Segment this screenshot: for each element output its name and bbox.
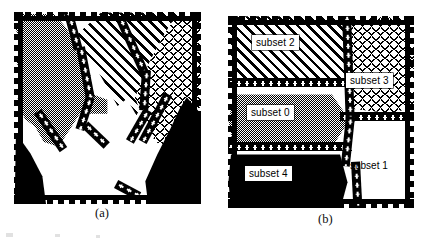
label-subset-1: subset 1 bbox=[350, 160, 388, 171]
wall-b-h1 bbox=[228, 78, 352, 87]
panel-a bbox=[14, 12, 201, 204]
scan-speck bbox=[55, 234, 60, 237]
scan-speck bbox=[6, 233, 13, 237]
label-subset-4: subset 4 bbox=[245, 166, 292, 181]
scan-speck bbox=[96, 235, 100, 238]
figure-root: subset 2 subset 3 subset 0 subset 4 subs… bbox=[0, 0, 431, 243]
panel-b: subset 2 subset 3 subset 0 subset 4 subs… bbox=[228, 16, 414, 208]
wall-b-h2 bbox=[228, 142, 352, 151]
label-subset-0: subset 0 bbox=[247, 105, 294, 120]
caption-panel-a: (a) bbox=[95, 206, 109, 221]
label-subset-3: subset 3 bbox=[346, 73, 393, 88]
label-subset-2: subset 2 bbox=[252, 35, 299, 50]
panel-a-plate bbox=[14, 12, 201, 204]
caption-panel-b: (b) bbox=[318, 212, 333, 227]
panel-b-plate: subset 2 subset 3 subset 0 subset 4 subs… bbox=[228, 16, 414, 208]
